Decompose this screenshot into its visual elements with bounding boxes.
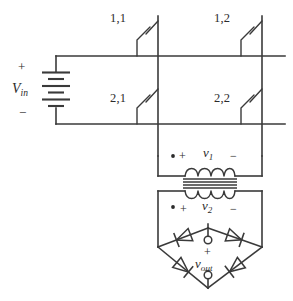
switch-2-1-symbol[interactable] [137,89,158,124]
source-label-subscript: in [21,88,28,98]
primary-plus-sign: + [179,150,186,162]
transformer-secondary-coil [185,191,235,199]
secondary-plus-sign: + [180,203,187,215]
switch-1-2-label: 1,2 [214,12,230,25]
source-plus-sign: + [18,60,25,73]
battery-plates [42,73,70,107]
switch-1-1-label: 1,1 [110,12,126,25]
primary-dot-icon [171,154,175,158]
circuit-svg [0,0,293,301]
secondary-voltage-subscript: 2 [208,205,213,215]
primary-minus-sign: − [230,150,237,162]
switch-2-2-label: 2,2 [214,92,230,105]
switch-1-1-symbol[interactable] [137,21,158,56]
polarity-dots [171,154,175,209]
primary-voltage-label: v1 [203,146,213,162]
circuit-diagram: 1,1 1,2 2,1 2,2 + Vin − + v1 − + v2 − + … [0,0,293,301]
transformer-primary-coil [185,169,235,177]
secondary-minus-sign: − [230,203,237,215]
primary-voltage-subscript: 1 [209,152,214,162]
secondary-dot-icon [171,205,175,209]
source-label: Vin [12,82,28,98]
secondary-voltage-label: v2 [202,199,212,215]
source-branch [42,56,70,124]
switch-2-1-label: 2,1 [110,92,126,105]
source-label-main: V [12,81,21,96]
transformer-core [183,179,237,188]
source-minus-sign: − [19,106,26,119]
switch-2-2-symbol[interactable] [241,89,262,124]
switch-1-2-symbol[interactable] [241,21,262,56]
output-terminal-positive [204,236,212,244]
output-minus-sign: − [204,264,211,276]
